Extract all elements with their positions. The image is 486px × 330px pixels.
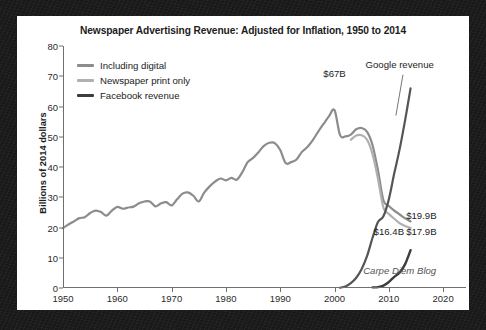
y-tick-label: 0 bbox=[53, 283, 58, 294]
y-tick-label: 30 bbox=[47, 192, 58, 203]
legend-swatch-icon bbox=[77, 64, 94, 67]
y-tick-label: 20 bbox=[47, 222, 58, 233]
y-tick-mark bbox=[59, 288, 63, 289]
y-tick-mark bbox=[59, 197, 63, 198]
peak-label: $67B bbox=[323, 68, 345, 79]
plot-area: 01020304050607080 1950196019701980199020… bbox=[63, 46, 454, 288]
watermark: Carpe Diem Blog bbox=[363, 264, 436, 275]
legend-item[interactable]: Including digital bbox=[77, 58, 190, 73]
legend-label: Newspaper print only bbox=[100, 75, 190, 86]
x-tick-mark bbox=[280, 288, 281, 292]
chart-title: Newspaper Advertising Revenue: Adjusted … bbox=[17, 25, 469, 36]
y-tick-label: 10 bbox=[47, 252, 58, 263]
legend-item[interactable]: Facebook revenue bbox=[77, 88, 190, 103]
x-tick-label: 1970 bbox=[161, 293, 182, 304]
y-tick-mark bbox=[59, 167, 63, 168]
y-tick-label: 40 bbox=[47, 162, 58, 173]
legend-label: Facebook revenue bbox=[100, 90, 179, 101]
y-tick-mark bbox=[59, 76, 63, 77]
x-tick-label: 2020 bbox=[433, 293, 454, 304]
y-tick-mark bbox=[59, 46, 63, 47]
x-tick-label: 1980 bbox=[215, 293, 236, 304]
y-axis-line bbox=[63, 46, 64, 288]
y-tick-mark bbox=[59, 257, 63, 258]
x-tick-label: 1950 bbox=[52, 293, 73, 304]
legend-swatch-icon bbox=[77, 79, 94, 82]
x-tick-label: 2010 bbox=[378, 293, 399, 304]
legend-item[interactable]: Newspaper print only bbox=[77, 73, 190, 88]
x-tick-mark bbox=[226, 288, 227, 292]
x-tick-mark bbox=[389, 288, 390, 292]
google-label-leader-line bbox=[396, 75, 403, 116]
y-tick-mark bbox=[59, 106, 63, 107]
series-line-google-revenue bbox=[340, 88, 411, 287]
x-tick-mark bbox=[443, 288, 444, 292]
x-tick-mark bbox=[117, 288, 118, 292]
chart-card: Newspaper Advertising Revenue: Adjusted … bbox=[17, 16, 469, 310]
legend-swatch-icon bbox=[77, 94, 94, 97]
google-label: Google revenue bbox=[366, 59, 434, 70]
x-tick-label: 2000 bbox=[324, 293, 345, 304]
print-label: $19.9B bbox=[406, 210, 436, 221]
x-tick-mark bbox=[335, 288, 336, 292]
x-tick-label: 1960 bbox=[107, 293, 128, 304]
y-tick-mark bbox=[59, 227, 63, 228]
x-axis-line bbox=[63, 287, 466, 288]
y-tick-label: 80 bbox=[47, 41, 58, 52]
y-tick-mark bbox=[59, 136, 63, 137]
legend-label: Including digital bbox=[100, 60, 166, 71]
screenshot-frame: Newspaper Advertising Revenue: Adjusted … bbox=[0, 0, 486, 330]
x-tick-label: 1990 bbox=[270, 293, 291, 304]
facebook-label: $16.4B bbox=[374, 225, 404, 236]
y-tick-label: 70 bbox=[47, 71, 58, 82]
digital-label: $17.9B bbox=[406, 225, 436, 236]
x-tick-mark bbox=[172, 288, 173, 292]
y-tick-label: 50 bbox=[47, 131, 58, 142]
series-line-including-digital bbox=[63, 109, 411, 228]
chart-legend: Including digitalNewspaper print onlyFac… bbox=[77, 58, 190, 103]
y-tick-label: 60 bbox=[47, 101, 58, 112]
